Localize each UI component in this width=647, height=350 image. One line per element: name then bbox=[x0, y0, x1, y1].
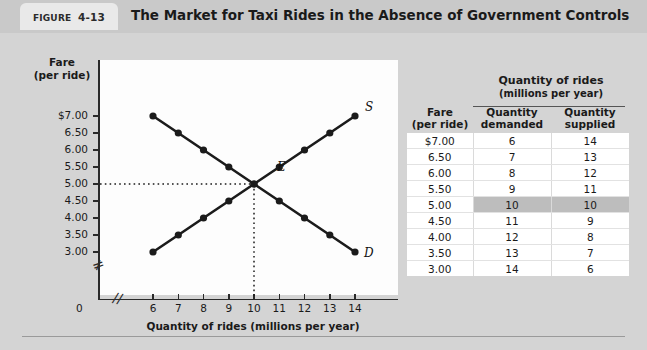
cell-quantity-supplied: 14 bbox=[551, 133, 629, 149]
x-axis-line bbox=[98, 299, 398, 301]
cell-fare: 3.50 bbox=[407, 245, 473, 261]
column-header-quantity-demanded: Quantity demanded bbox=[473, 104, 551, 133]
y-tick-mark bbox=[93, 200, 98, 202]
table-body: $7.006146.507136.008125.509115.0010104.5… bbox=[407, 133, 629, 276]
cell-quantity-demanded: 12 bbox=[473, 229, 551, 245]
cell-quantity-demanded: 6 bbox=[473, 133, 551, 149]
x-tick-mark bbox=[304, 294, 306, 299]
graph-plot-area bbox=[98, 60, 398, 295]
cell-fare: 3.00 bbox=[407, 261, 473, 277]
y-tick-label: $7.00 bbox=[36, 109, 88, 121]
y-tick-mark bbox=[93, 234, 98, 236]
table-group-header-line1: Quantity of rides bbox=[473, 74, 629, 87]
column-header-qs-line2: supplied bbox=[551, 118, 629, 130]
cell-fare: $7.00 bbox=[407, 133, 473, 149]
cell-fare: 6.50 bbox=[407, 149, 473, 165]
cell-quantity-supplied: 8 bbox=[551, 229, 629, 245]
y-tick-label: 5.50 bbox=[36, 160, 88, 172]
cell-quantity-demanded: 9 bbox=[473, 181, 551, 197]
x-axis-title: Quantity of rides (millions per year) bbox=[118, 320, 388, 332]
cell-fare: 4.00 bbox=[407, 229, 473, 245]
cell-fare: 5.00 bbox=[407, 197, 473, 213]
table-group-header-line2: (millions per year) bbox=[473, 87, 629, 100]
table-head: Fare (per ride) Quantity demanded Quanti… bbox=[407, 104, 629, 133]
y-tick-mark bbox=[93, 217, 98, 219]
x-tick-label: 8 bbox=[192, 302, 216, 314]
x-tick-mark bbox=[228, 294, 230, 299]
table-row: 6.00812 bbox=[407, 165, 629, 181]
y-tick-label: 5.00 bbox=[36, 177, 88, 189]
column-header-qd-line1: Quantity bbox=[473, 106, 551, 118]
y-tick-mark bbox=[93, 183, 98, 185]
x-tick-mark bbox=[178, 294, 180, 299]
cell-quantity-supplied: 6 bbox=[551, 261, 629, 277]
y-tick-mark bbox=[93, 166, 98, 168]
x-tick-label: 11 bbox=[267, 302, 291, 314]
cell-quantity-demanded: 13 bbox=[473, 245, 551, 261]
x-tick-label: 10 bbox=[242, 302, 266, 314]
cell-fare: 4.50 bbox=[407, 213, 473, 229]
y-tick-mark bbox=[93, 115, 98, 117]
y-tick-label: 3.50 bbox=[36, 228, 88, 240]
cell-quantity-supplied: 7 bbox=[551, 245, 629, 261]
cell-quantity-supplied: 9 bbox=[551, 213, 629, 229]
x-tick-mark bbox=[354, 294, 356, 299]
equilibrium-point-label: E bbox=[277, 160, 286, 174]
cell-quantity-demanded: 14 bbox=[473, 261, 551, 277]
supply-curve-label: S bbox=[365, 100, 373, 114]
supply-demand-table: Quantity of rides (millions per year) Fa… bbox=[407, 74, 629, 276]
column-header-fare-line1: Fare bbox=[407, 106, 473, 118]
y-axis-title-line1: Fare bbox=[30, 56, 94, 69]
y-tick-label: 4.50 bbox=[36, 194, 88, 206]
cell-quantity-demanded: 11 bbox=[473, 213, 551, 229]
table-row: 5.001010 bbox=[407, 197, 629, 213]
table-row: 5.50911 bbox=[407, 181, 629, 197]
x-tick-mark bbox=[152, 294, 154, 299]
x-tick-label: 14 bbox=[343, 302, 367, 314]
x-tick-mark bbox=[329, 294, 331, 299]
x-tick-label: 12 bbox=[293, 302, 317, 314]
y-axis-title: Fare (per ride) bbox=[30, 56, 94, 82]
column-header-qd-line2: demanded bbox=[473, 118, 551, 130]
x-tick-mark bbox=[203, 294, 205, 299]
table-header-rule bbox=[473, 106, 625, 107]
y-tick-label: 4.00 bbox=[36, 211, 88, 223]
y-tick-label: 6.50 bbox=[36, 126, 88, 138]
cell-quantity-supplied: 11 bbox=[551, 181, 629, 197]
figure-title: The Market for Taxi Rides in the Absence… bbox=[131, 7, 629, 23]
y-tick-mark bbox=[93, 132, 98, 134]
table-row: 4.50119 bbox=[407, 213, 629, 229]
x-tick-label: 9 bbox=[217, 302, 241, 314]
cell-quantity-demanded: 10 bbox=[473, 197, 551, 213]
cell-quantity-demanded: 8 bbox=[473, 165, 551, 181]
cell-fare: 6.00 bbox=[407, 165, 473, 181]
table-row: $7.00614 bbox=[407, 133, 629, 149]
bottom-divider-rule bbox=[22, 336, 625, 337]
x-tick-label: 13 bbox=[318, 302, 342, 314]
table-row: 4.00128 bbox=[407, 229, 629, 245]
cell-quantity-supplied: 12 bbox=[551, 165, 629, 181]
y-tick-mark bbox=[93, 149, 98, 151]
column-header-fare: Fare (per ride) bbox=[407, 104, 473, 133]
table-group-header: Quantity of rides (millions per year) bbox=[473, 74, 629, 100]
column-header-fare-line2: (per ride) bbox=[407, 118, 473, 130]
table-row: 3.00146 bbox=[407, 261, 629, 277]
y-axis-title-line2: (per ride) bbox=[30, 69, 94, 82]
origin-label: 0 bbox=[76, 302, 83, 314]
column-header-qs-line1: Quantity bbox=[551, 106, 629, 118]
y-tick-mark bbox=[93, 251, 98, 253]
figure-container: FIGURE 4-13 The Market for Taxi Rides in… bbox=[0, 0, 647, 350]
y-tick-label: 6.00 bbox=[36, 143, 88, 155]
column-header-quantity-supplied: Quantity supplied bbox=[551, 104, 629, 133]
cell-quantity-supplied: 10 bbox=[551, 197, 629, 213]
figure-number-tab: FIGURE 4-13 bbox=[20, 3, 118, 30]
cell-quantity-supplied: 13 bbox=[551, 149, 629, 165]
demand-curve-label: D bbox=[364, 246, 374, 260]
table-element: Fare (per ride) Quantity demanded Quanti… bbox=[407, 104, 629, 276]
x-tick-label: 6 bbox=[141, 302, 165, 314]
figure-number-label: FIGURE 4-13 bbox=[33, 11, 105, 23]
table-row: 3.50137 bbox=[407, 245, 629, 261]
y-tick-label: 3.00 bbox=[36, 245, 88, 257]
x-tick-mark bbox=[253, 294, 255, 299]
x-tick-mark bbox=[279, 294, 281, 299]
